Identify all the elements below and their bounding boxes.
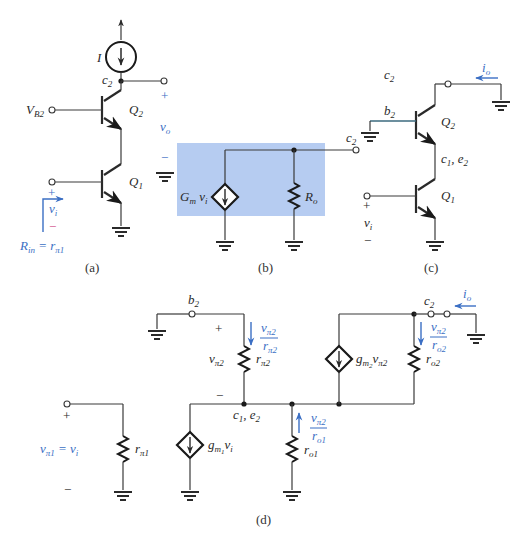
junction-dot <box>241 401 246 406</box>
io-label: io <box>482 60 491 77</box>
c2-terminal[interactable] <box>353 147 359 153</box>
gm2-source-label: gm2vπ2 <box>356 351 388 370</box>
caption-c: (c) <box>424 260 438 275</box>
vpi2-label: vπ2 <box>209 351 224 368</box>
node-c2-label: c2 <box>346 130 357 147</box>
caption-b: (b) <box>258 260 273 275</box>
rpi1-label: rπ1 <box>135 441 149 458</box>
vpi1-minus-label: − <box>64 482 71 497</box>
caption-a: (a) <box>85 260 99 275</box>
node-b2-label: b2 <box>384 103 396 120</box>
caption-d: (d) <box>256 512 271 527</box>
node-b2-label: b2 <box>188 292 200 309</box>
ground-icon <box>114 492 132 500</box>
ground-icon <box>181 492 199 500</box>
ground-icon <box>361 133 379 141</box>
output-minus-label: − <box>161 150 168 165</box>
node-c2-label: c2 <box>424 293 435 310</box>
panel-c: c2 io b2 Q2 c1, e2 Q1 + vi − (c) <box>361 60 510 275</box>
i-ro1-numerator: vπ2 <box>311 410 326 427</box>
panel-b: c2 Gm vi Ro (b) <box>177 130 359 275</box>
vpi2-minus-label: − <box>216 388 223 403</box>
resistor-ro1-icon <box>287 436 297 462</box>
rin-label: Rin = rπ1 <box>19 238 64 255</box>
q1-label: Q1 <box>129 174 143 191</box>
ground-icon <box>112 228 130 236</box>
ground-icon <box>492 102 510 110</box>
input-minus-label: − <box>364 233 371 248</box>
io-label: io <box>463 286 472 303</box>
ground-icon <box>467 335 485 343</box>
node-c1e2-label: c1, e2 <box>233 407 261 424</box>
i-ro1-denominator: ro1 <box>312 428 326 445</box>
ground-icon <box>156 173 174 181</box>
output-terminal[interactable] <box>161 78 167 84</box>
ground-icon <box>148 331 166 339</box>
i-ro2-numerator: vπ2 <box>431 319 446 336</box>
panel-a: I c2 + vo − VB2 Q2 Q1 + vi − R <box>19 20 174 275</box>
gm1-source-label: gm1vi <box>208 437 233 456</box>
output-terminal[interactable] <box>444 311 450 317</box>
vpi2-plus-label: + <box>215 321 222 336</box>
input-plus-label: + <box>363 198 370 213</box>
node-c2-label: c2 <box>102 72 113 89</box>
q2-label: Q2 <box>129 102 143 119</box>
ground-icon <box>216 242 234 250</box>
current-source-label: I <box>96 50 102 65</box>
ground-icon <box>285 242 303 250</box>
ground-icon <box>426 242 444 250</box>
input-terminal[interactable] <box>64 401 70 407</box>
highlight-box <box>177 143 325 216</box>
resistor-rpi2-icon <box>239 346 249 372</box>
vpi1-label: vπ1 = vi <box>40 441 79 458</box>
node-c1e2-label: c1, e2 <box>441 151 469 168</box>
resistor-ro2-icon <box>409 346 419 372</box>
q1-label: Q1 <box>441 188 455 205</box>
node-c2-label: c2 <box>384 67 395 84</box>
q2-label: Q2 <box>441 114 455 131</box>
c2-terminal[interactable] <box>428 311 434 317</box>
b2-terminal[interactable] <box>189 311 195 317</box>
circuit-figure: I c2 + vo − VB2 Q2 Q1 + vi − R <box>0 0 525 546</box>
output-plus-label: + <box>161 88 168 103</box>
input-minus-label: − <box>49 219 56 234</box>
i-rpi2-denominator: rπ2 <box>263 338 278 355</box>
output-voltage-label: vo <box>160 119 171 136</box>
ro1-label: ro1 <box>304 442 318 459</box>
input-voltage-label: vi <box>49 201 58 218</box>
vpi1-plus-label: + <box>63 408 70 423</box>
input-plus-label: + <box>48 185 55 200</box>
ground-icon <box>283 492 301 500</box>
i-rpi2-numerator: vπ2 <box>261 320 276 337</box>
panel-d: b2 + vπ2 rπ2 vπ2 rπ2 − c1, e2 gm1vi ro1 … <box>40 286 485 527</box>
i-ro2-denominator: ro2 <box>432 337 447 354</box>
c2-terminal[interactable] <box>445 81 451 87</box>
vb2-label: VB2 <box>26 102 44 119</box>
input-voltage-label: vi <box>364 215 373 232</box>
resistor-rpi1-icon <box>118 436 128 462</box>
vb2-terminal[interactable] <box>49 107 55 113</box>
